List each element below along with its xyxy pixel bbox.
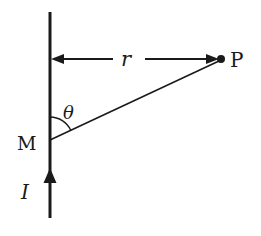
current-label: I — [20, 180, 30, 204]
point-m-label: M — [17, 132, 36, 154]
distance-label: r — [121, 47, 133, 71]
distance-arrow-left-head-icon — [51, 54, 64, 64]
diagram-canvas: r P M θ I — [0, 0, 261, 236]
angle-label: θ — [63, 102, 74, 123]
current-arrow-icon — [44, 168, 57, 183]
line-m-to-p — [50, 61, 219, 140]
point-p-label: P — [230, 48, 243, 72]
